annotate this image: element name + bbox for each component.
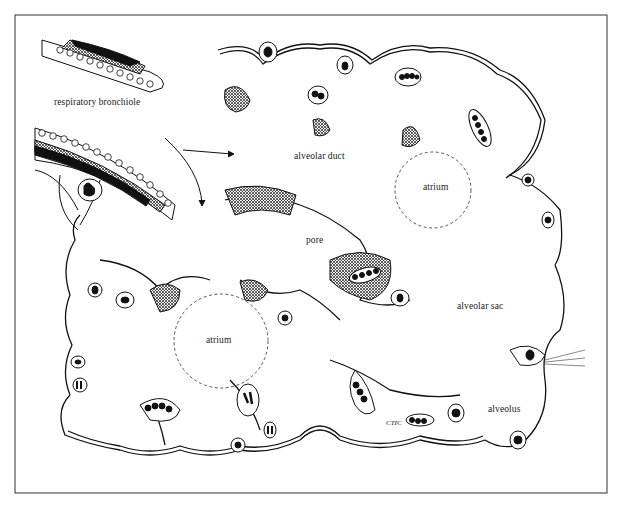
label-alveolar-sac: alveolar sac [457, 301, 503, 311]
label-respiratory-bronchiole: respiratory bronchiole [54, 97, 140, 107]
label-alveolus: alveolus [488, 404, 520, 414]
label-atrium-top: atrium [423, 182, 448, 192]
alveolar-structure-illustration [0, 0, 620, 507]
artist-signature: CTIC [386, 419, 402, 427]
label-alveolar-duct: alveolar duct [294, 151, 345, 161]
label-pore: pore [306, 235, 323, 245]
respiratory-bronchiole-top [42, 40, 164, 92]
respiratory-bronchiole-wall [35, 128, 175, 230]
capillary-clusters [71, 42, 585, 452]
label-atrium-bottom: atrium [206, 335, 231, 345]
direction-arrows [165, 138, 234, 206]
